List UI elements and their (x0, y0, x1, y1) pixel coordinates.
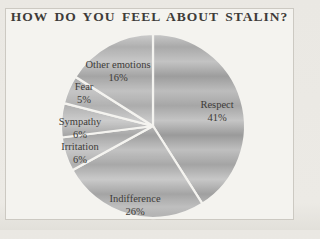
pie-chart: Respect41%Indifference26%Irritation6%Sym… (0, 0, 300, 230)
